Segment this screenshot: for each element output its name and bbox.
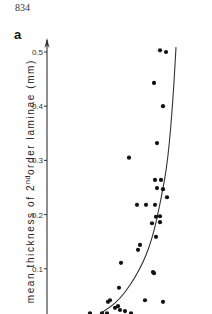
data-point	[138, 243, 142, 247]
y-tick-label: 0.5	[32, 48, 44, 57]
data-points	[88, 48, 169, 314]
fitted-curve	[100, 47, 176, 314]
data-point	[136, 248, 140, 252]
data-point	[153, 178, 157, 182]
data-point	[159, 178, 163, 182]
y-tick-label: 0.4	[32, 102, 44, 111]
data-point	[158, 48, 162, 52]
data-point	[152, 81, 156, 85]
data-point	[117, 286, 121, 290]
y-axis	[45, 38, 50, 314]
data-point	[165, 195, 169, 199]
data-point	[116, 304, 120, 308]
data-point	[143, 298, 147, 302]
data-point	[119, 261, 123, 265]
data-point	[154, 215, 158, 219]
y-tick-label: 0.2	[32, 211, 44, 220]
data-point	[152, 271, 156, 275]
data-point	[164, 50, 168, 54]
data-point	[154, 235, 158, 239]
data-point	[161, 300, 165, 304]
data-point	[135, 203, 139, 207]
data-point	[123, 309, 127, 313]
data-point	[161, 187, 165, 191]
data-point	[155, 186, 159, 190]
data-point	[144, 203, 148, 207]
data-point	[155, 141, 159, 145]
data-point	[118, 308, 122, 312]
y-tick-label: 0.1	[32, 265, 44, 274]
y-axis-ticks: 0.10.20.30.40.5	[32, 48, 47, 274]
scatter-plot: 0.10.20.30.40.5	[0, 0, 212, 314]
data-point	[158, 220, 162, 224]
data-point	[127, 156, 131, 160]
data-point	[158, 214, 162, 218]
y-tick-label: 0.3	[32, 156, 44, 165]
data-point	[150, 221, 154, 225]
data-point	[106, 300, 110, 304]
data-point	[161, 104, 165, 108]
data-point	[153, 203, 157, 207]
